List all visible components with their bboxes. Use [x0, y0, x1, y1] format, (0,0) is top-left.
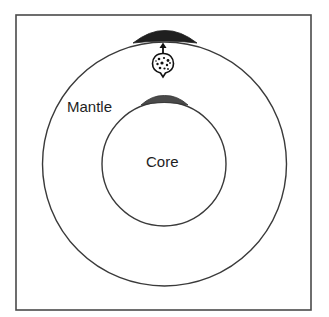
mantle-label: Mantle — [67, 98, 112, 115]
core-label: Core — [146, 153, 179, 170]
earth-cross-section-diagram: Mantle Core — [0, 0, 329, 317]
core-lens-shape — [141, 95, 188, 105]
upward-arrow-icon — [160, 43, 167, 54]
surface-lens-shape — [133, 30, 197, 43]
rising-plume-blob-icon — [153, 54, 174, 78]
